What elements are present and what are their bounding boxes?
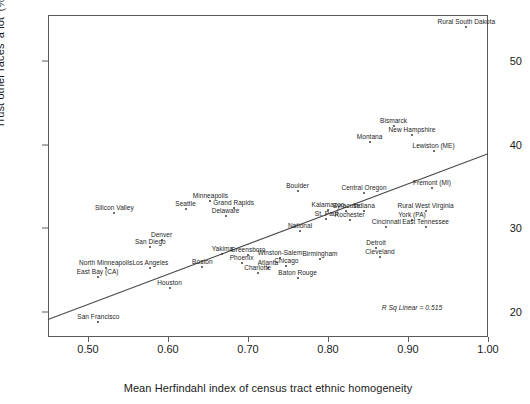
data-point [97,276,99,278]
data-point [221,253,223,255]
data-point-label: Fremont (MI) [413,179,451,186]
data-point-label: National [288,222,312,229]
data-point [369,141,371,143]
data-point-label: Winston-Salem [258,249,303,256]
x-tick-mark [408,337,409,342]
x-tick-mark [488,337,489,342]
data-point [201,266,203,268]
data-point-label: Rural West Virginia [397,202,453,209]
x-tick-label: 1.00 [477,343,498,355]
data-point-label: Baton Rouge [278,269,317,276]
data-point-label: Grand Rapids [213,199,254,206]
data-point [149,246,151,248]
x-axis-label: Mean Herfindahl index of census tract et… [48,382,488,394]
data-point [363,192,365,194]
data-point [225,215,227,217]
data-point-label: Cincinnati [372,218,401,225]
data-point-label: New Hampshire [389,126,436,133]
data-point [149,267,151,269]
data-point-label: Minneapolis [193,192,228,199]
data-point-label: Chicago [274,257,298,264]
data-point-label: Cleveland [365,248,394,255]
data-point [297,190,299,192]
x-tick-mark [328,337,329,342]
data-point [209,200,211,202]
y-tick-label: 30 [482,222,530,234]
data-point-label: Indiana [353,202,375,209]
data-point-label: Yakima [212,245,234,252]
scatter-chart: Trust other races 'a lot' (%) Mean Herfi… [0,0,530,404]
data-point-label: Lewiston (ME) [412,142,454,149]
data-point-label: Detroit [366,239,386,246]
data-point-label: Boston [192,258,213,265]
x-tick-mark [248,337,249,342]
x-tick-mark [88,337,89,342]
data-point-label: North Minneapolis [79,259,132,266]
data-point-label: Seattle [175,200,196,207]
data-point [297,277,299,279]
x-tick-mark [168,337,169,342]
data-point [285,265,287,267]
data-point-label: San Diego [135,238,166,245]
data-point [349,219,351,221]
x-tick-label: 0.60 [157,343,178,355]
data-point [257,272,259,274]
data-point [113,212,115,214]
y-tick-label: 20 [482,306,530,318]
data-point [433,150,435,152]
data-point [299,230,301,232]
data-point [425,226,427,228]
y-tick-label: 40 [482,139,530,151]
data-point-label: East Bay (CA) [77,268,119,275]
x-tick-label: 0.90 [397,343,418,355]
data-point-label: Phoenix [230,254,254,261]
data-point-label: Bismarck [380,117,407,124]
x-tick-label: 0.50 [77,343,98,355]
data-point [385,226,387,228]
data-point [319,258,321,260]
data-point-label: East Tennessee [402,218,449,225]
data-point-label: Montana [357,133,383,140]
r-squared-annotation: R Sq Linear = 0.515 [382,303,443,310]
data-point [411,134,413,136]
plot-area [48,15,488,337]
data-point-label: Charlotte [244,264,271,271]
y-tick-label: 50 [482,55,530,67]
data-point [379,256,381,258]
x-tick-label: 0.80 [317,343,338,355]
data-point-label: Rochester [335,211,365,218]
data-point-label: Los Angeles [132,259,168,266]
y-axis-label: Trust other races 'a lot' (%) [0,0,6,176]
data-point-label: Silicon Valley [95,204,134,211]
data-point [465,26,467,28]
data-point-label: Central Oregon [341,184,386,191]
data-point-label: York (PA) [398,211,426,218]
data-point [185,208,187,210]
data-point [431,187,433,189]
data-point-label: Rural South Dakota [438,18,496,25]
data-point [325,218,327,220]
data-point-label: Birmingham [302,250,337,257]
data-point [97,321,99,323]
data-point-label: Delaware [212,207,240,214]
data-point [169,287,171,289]
data-point-label: Boulder [286,182,309,189]
x-tick-label: 0.70 [237,343,258,355]
data-point-label: San Francisco [77,313,119,320]
data-point [241,262,243,264]
data-point-label: Houston [157,279,182,286]
